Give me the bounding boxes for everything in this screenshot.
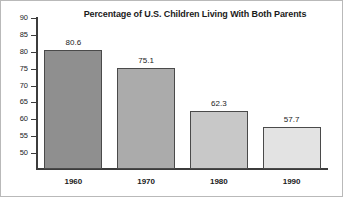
y-axis-tick	[31, 153, 37, 154]
bar-value-label: 62.3	[189, 99, 249, 108]
y-axis-tick	[31, 86, 37, 87]
x-axis-tick-label: 1960	[43, 177, 103, 186]
y-axis-tick-label: 50	[6, 149, 28, 157]
y-axis-tick-label: 60	[6, 115, 28, 123]
bar	[117, 68, 175, 169]
y-axis-line	[36, 17, 38, 170]
bar	[263, 127, 321, 169]
y-axis-tick-label: 80	[6, 48, 28, 56]
y-axis-tick	[31, 119, 37, 120]
y-axis-tick	[31, 136, 37, 137]
chart-title: Percentage of U.S. Children Living With …	[59, 9, 331, 19]
y-axis-tick-label: 70	[6, 82, 28, 90]
y-axis-tick-label: 65	[6, 98, 28, 106]
bar	[44, 50, 102, 169]
y-axis-tick-label: 75	[6, 65, 28, 73]
bar-value-label: 57.7	[262, 115, 322, 124]
bar	[190, 111, 248, 169]
x-axis-tick-label: 1970	[116, 177, 176, 186]
x-axis-tick-label: 1990	[262, 177, 322, 186]
bar-chart: Percentage of U.S. Children Living With …	[1, 1, 343, 197]
y-axis-tick-label: 85	[6, 31, 28, 39]
y-axis-tick-label: 55	[6, 132, 28, 140]
chart-screenshot: Percentage of U.S. Children Living With …	[0, 0, 343, 197]
y-axis-tick-label: 90	[6, 14, 28, 22]
y-axis-tick	[31, 18, 37, 19]
y-axis-tick	[31, 52, 37, 53]
y-axis-tick	[31, 35, 37, 36]
bar-value-label: 75.1	[116, 56, 176, 65]
y-axis-tick	[31, 69, 37, 70]
bar-value-label: 80.6	[43, 38, 103, 47]
y-axis-tick	[31, 102, 37, 103]
x-axis-tick-label: 1980	[189, 177, 249, 186]
